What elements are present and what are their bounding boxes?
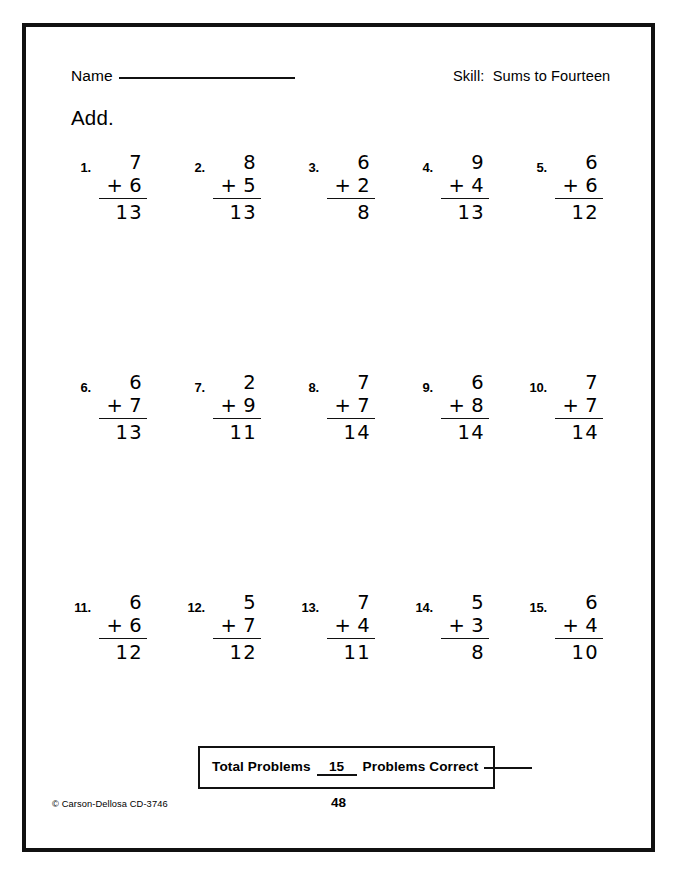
total-problems-label: Total Problems [212, 759, 311, 774]
addend-top: 6 [441, 371, 489, 394]
problem-stack: 6 +7 13 [99, 371, 147, 444]
answer-field[interactable]: 10 [555, 639, 603, 664]
answer-field[interactable]: 8 [441, 639, 489, 664]
answer-field[interactable]: 14 [327, 419, 375, 444]
problem-stack: 7 +4 11 [327, 591, 375, 664]
problem-number: 4. [406, 151, 433, 175]
problem-row: 1. 7 +6 13 2. 8 +5 13 3. [64, 151, 634, 371]
problem-stack: 9 +4 13 [441, 151, 489, 224]
plus-icon: + [220, 394, 238, 417]
addend-top: 5 [213, 591, 261, 614]
addend-bottom-value: 5 [243, 174, 257, 197]
problem-number: 12. [178, 591, 205, 615]
name-field[interactable]: Name [71, 67, 295, 85]
addend-bottom: +3 [441, 614, 489, 639]
addend-bottom-value: 4 [585, 614, 599, 637]
problem-stack: 6 +2 8 [327, 151, 375, 224]
addend-top: 7 [555, 371, 603, 394]
problem-stack: 8 +5 13 [213, 151, 261, 224]
problem-row: 11. 6 +6 12 12. 5 +7 12 13. [64, 591, 634, 664]
problem-13[interactable]: 13. 7 +4 11 [292, 591, 406, 664]
name-label: Name [71, 67, 113, 85]
addend-bottom-value: 7 [129, 394, 143, 417]
addend-top: 6 [327, 151, 375, 174]
problem-number: 7. [178, 371, 205, 395]
plus-icon: + [334, 614, 352, 637]
problem-number: 10. [520, 371, 547, 395]
plus-icon: + [562, 174, 580, 197]
problem-12[interactable]: 12. 5 +7 12 [178, 591, 292, 664]
answer-field[interactable]: 11 [327, 639, 375, 664]
addend-bottom-value: 7 [357, 394, 371, 417]
addend-bottom-value: 6 [585, 174, 599, 197]
problem-11[interactable]: 11. 6 +6 12 [64, 591, 178, 664]
answer-field[interactable]: 12 [555, 199, 603, 224]
problem-number: 1. [64, 151, 91, 175]
answer-field[interactable]: 14 [555, 419, 603, 444]
problem-number: 2. [178, 151, 205, 175]
answer-field[interactable]: 13 [441, 199, 489, 224]
plus-icon: + [562, 394, 580, 417]
answer-field[interactable]: 13 [99, 199, 147, 224]
problem-number: 13. [292, 591, 319, 615]
problem-14[interactable]: 14. 5 +3 8 [406, 591, 520, 664]
addend-bottom-value: 4 [357, 614, 371, 637]
problem-10[interactable]: 10. 7 +7 14 [520, 371, 634, 591]
problem-6[interactable]: 6. 6 +7 13 [64, 371, 178, 591]
addend-top: 7 [327, 591, 375, 614]
answer-field[interactable]: 14 [441, 419, 489, 444]
problem-stack: 5 +7 12 [213, 591, 261, 664]
problem-3[interactable]: 3. 6 +2 8 [292, 151, 406, 371]
problem-4[interactable]: 4. 9 +4 13 [406, 151, 520, 371]
answer-field[interactable]: 13 [99, 419, 147, 444]
answer-field[interactable]: 13 [213, 199, 261, 224]
addend-top: 7 [327, 371, 375, 394]
plus-icon: + [220, 174, 238, 197]
worksheet-header: Name Skill: Sums to Fourteen [26, 27, 651, 81]
problem-stack: 6 +6 12 [555, 151, 603, 224]
answer-field[interactable]: 12 [213, 639, 261, 664]
problem-8[interactable]: 8. 7 +7 14 [292, 371, 406, 591]
problem-stack: 6 +6 12 [99, 591, 147, 664]
problem-1[interactable]: 1. 7 +6 13 [64, 151, 178, 371]
addend-top: 8 [213, 151, 261, 174]
addend-top: 6 [99, 591, 147, 614]
plus-icon: + [334, 394, 352, 417]
total-problems-value[interactable]: 15 [317, 759, 357, 776]
answer-field[interactable]: 8 [327, 199, 375, 224]
plus-icon: + [106, 174, 124, 197]
addend-bottom: +7 [555, 394, 603, 419]
addend-bottom: +4 [441, 174, 489, 199]
addend-bottom-value: 2 [357, 174, 371, 197]
worksheet-page: Name Skill: Sums to Fourteen Add. 1. 7 +… [22, 23, 655, 852]
plus-icon: + [448, 614, 466, 637]
problem-stack: 5 +3 8 [441, 591, 489, 664]
plus-icon: + [106, 394, 124, 417]
problems-correct-label: Problems Correct [363, 759, 479, 774]
addend-bottom-value: 8 [471, 394, 485, 417]
addend-top: 2 [213, 371, 261, 394]
problem-stack: 6 +4 10 [555, 591, 603, 664]
addend-bottom: +7 [213, 614, 261, 639]
instruction-text: Add. [71, 106, 114, 130]
problem-5[interactable]: 5. 6 +6 12 [520, 151, 634, 371]
answer-field[interactable]: 11 [213, 419, 261, 444]
addend-top: 7 [99, 151, 147, 174]
addend-bottom-value: 7 [585, 394, 599, 417]
addend-bottom: +7 [99, 394, 147, 419]
page-number: 48 [26, 795, 651, 810]
problem-number: 14. [406, 591, 433, 615]
addend-bottom: +5 [213, 174, 261, 199]
problem-stack: 7 +7 14 [555, 371, 603, 444]
problems-correct-value[interactable] [484, 766, 532, 769]
problem-2[interactable]: 2. 8 +5 13 [178, 151, 292, 371]
problem-9[interactable]: 9. 6 +8 14 [406, 371, 520, 591]
addend-bottom-value: 7 [243, 614, 257, 637]
answer-field[interactable]: 12 [99, 639, 147, 664]
name-write-line[interactable] [119, 76, 295, 79]
problems-grid: 1. 7 +6 13 2. 8 +5 13 3. [64, 151, 634, 664]
addend-top: 6 [99, 371, 147, 394]
problem-7[interactable]: 7. 2 +9 11 [178, 371, 292, 591]
problem-15[interactable]: 15. 6 +4 10 [520, 591, 634, 664]
addend-top: 9 [441, 151, 489, 174]
